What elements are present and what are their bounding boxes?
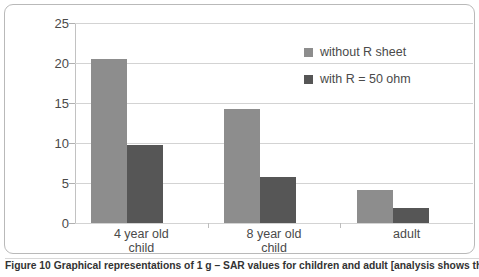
legend-swatch-with-r-50-ohm bbox=[304, 75, 313, 84]
x-axis-category-label-line: adult bbox=[340, 227, 473, 241]
legend-label-without-r-sheet: without R sheet bbox=[320, 45, 406, 59]
y-axis-tick-label: 25 bbox=[29, 17, 69, 30]
chart-frame: 0510152025 4 year oldchild8 year oldchil… bbox=[4, 4, 475, 254]
x-axis-category-label-line: child bbox=[208, 241, 341, 254]
y-axis-tick bbox=[69, 223, 75, 224]
bar bbox=[357, 190, 393, 223]
figure-container: 0510152025 4 year oldchild8 year oldchil… bbox=[0, 0, 479, 277]
y-axis-tick-label: 20 bbox=[29, 57, 69, 70]
gridline bbox=[75, 223, 473, 224]
figure-caption: Figure 10 Graphical representations of 1… bbox=[5, 260, 479, 272]
x-axis-labels: 4 year oldchild8 year oldchildadult bbox=[75, 227, 473, 254]
x-axis-category-label: 4 year oldchild bbox=[75, 227, 208, 254]
bar bbox=[393, 208, 429, 223]
bar bbox=[260, 177, 296, 223]
caption-divider bbox=[5, 258, 479, 259]
y-axis-labels: 0510152025 bbox=[21, 5, 69, 254]
x-axis-category-label-line: child bbox=[75, 241, 208, 254]
legend-item: without R sheet bbox=[304, 45, 454, 59]
y-axis-tick-label: 10 bbox=[29, 137, 69, 150]
y-axis-tick-label: 15 bbox=[29, 97, 69, 110]
y-axis-tick-label: 0 bbox=[29, 217, 69, 230]
bar bbox=[91, 59, 127, 223]
legend-swatch-without-r-sheet bbox=[304, 48, 313, 57]
x-axis-category-label: 8 year oldchild bbox=[208, 227, 341, 254]
chart-legend: without R sheet with R = 50 ohm bbox=[304, 45, 454, 99]
x-axis-category-label-line: 8 year old bbox=[208, 227, 341, 241]
legend-item: with R = 50 ohm bbox=[304, 72, 454, 86]
bar bbox=[127, 145, 163, 223]
legend-label-with-r-50-ohm: with R = 50 ohm bbox=[320, 72, 411, 86]
x-axis-category-label-line: 4 year old bbox=[75, 227, 208, 241]
x-axis-category-label: adult bbox=[340, 227, 473, 241]
bar bbox=[224, 109, 260, 223]
y-axis-tick-label: 5 bbox=[29, 177, 69, 190]
